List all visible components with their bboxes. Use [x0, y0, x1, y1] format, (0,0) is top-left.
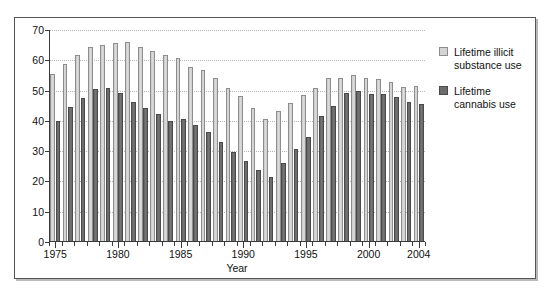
plot-frame: [49, 30, 425, 242]
x-tick-mark: [425, 242, 426, 246]
x-tick-mark-major: [306, 242, 307, 248]
x-tick-mark-major: [419, 242, 420, 248]
x-tick-mark: [187, 242, 188, 246]
x-tick-label: 1975: [44, 249, 67, 260]
x-tick-mark: [412, 242, 413, 246]
x-tick-mark: [87, 242, 88, 246]
x-tick-mark-major: [55, 242, 56, 248]
chart-legend: Lifetime illicit substance use Lifetime …: [439, 46, 535, 124]
legend-label-illicit-line2: substance use: [454, 59, 535, 72]
x-tick-mark: [149, 242, 150, 246]
x-tick-mark: [375, 242, 376, 246]
x-tick-mark: [262, 242, 263, 246]
x-tick-label: 1985: [169, 249, 192, 260]
x-tick-mark: [224, 242, 225, 246]
legend-item-cannabis: Lifetime cannabis use: [439, 85, 535, 110]
legend-label-illicit-line1: Lifetime illicit: [454, 46, 535, 59]
y-tick-label: 60: [32, 55, 44, 66]
x-tick-mark: [300, 242, 301, 246]
x-tick-mark-major: [181, 242, 182, 248]
x-tick-mark: [74, 242, 75, 246]
y-tick-label: 70: [32, 25, 44, 36]
x-tick-mark: [325, 242, 326, 246]
plot-area: 010203040506070: [49, 30, 425, 242]
x-tick-label: 1980: [106, 249, 129, 260]
y-tick-label: 0: [38, 237, 44, 248]
legend-swatch-cannabis-icon: [439, 86, 448, 95]
legend-label-cannabis-line1: Lifetime: [454, 85, 535, 98]
x-tick-mark: [337, 242, 338, 246]
x-tick-mark: [312, 242, 313, 246]
x-tick-mark: [387, 242, 388, 246]
x-tick-mark: [400, 242, 401, 246]
x-tick-mark: [124, 242, 125, 246]
y-tick-label: 20: [32, 176, 44, 187]
x-tick-mark: [99, 242, 100, 246]
x-tick-mark-major: [243, 242, 244, 248]
x-tick-label: 2000: [357, 249, 380, 260]
y-tick-label: 30: [32, 146, 44, 157]
x-tick-mark: [237, 242, 238, 246]
chart-figure: 010203040506070 197519801985199019952000…: [14, 17, 536, 279]
x-tick-mark: [112, 242, 113, 246]
x-tick-label: 2004: [407, 249, 430, 260]
x-axis-title: Year: [49, 262, 425, 274]
x-tick-mark: [62, 242, 63, 246]
x-tick-label: 1990: [232, 249, 255, 260]
x-tick-mark: [275, 242, 276, 246]
y-tick-label: 40: [32, 116, 44, 127]
x-tick-mark: [137, 242, 138, 246]
y-tick-label: 50: [32, 85, 44, 96]
y-tick-label: 10: [32, 206, 44, 217]
x-tick-mark: [49, 242, 50, 246]
x-tick-label: 1995: [294, 249, 317, 260]
x-tick-mark: [162, 242, 163, 246]
x-tick-mark: [362, 242, 363, 246]
x-tick-mark: [199, 242, 200, 246]
legend-swatch-illicit-icon: [439, 47, 448, 56]
x-tick-mark: [212, 242, 213, 246]
x-tick-mark: [250, 242, 251, 246]
x-tick-mark: [287, 242, 288, 246]
x-tick-mark-major: [118, 242, 119, 248]
x-tick-mark: [350, 242, 351, 246]
legend-label-cannabis-line2: cannabis use: [454, 98, 535, 111]
legend-item-illicit: Lifetime illicit substance use: [439, 46, 535, 71]
x-axis: 1975198019851990199520002004 Year: [49, 242, 425, 276]
x-tick-mark: [174, 242, 175, 246]
x-tick-mark-major: [369, 242, 370, 248]
